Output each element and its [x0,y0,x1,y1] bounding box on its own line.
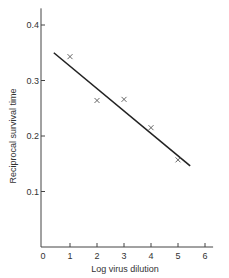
y-tick-label: 0.1 [26,187,39,197]
y-tick-label: 0.2 [26,131,39,141]
x-ticks: 0123456 [40,243,207,261]
x-tick-label: 6 [202,251,207,261]
x-tick-label: 2 [94,251,99,261]
data-point [68,54,73,59]
regression-line [54,53,190,166]
y-ticks: 0.10.20.30.4 [26,20,45,197]
x-axis-label: Log virus dilution [91,264,159,274]
data-point [176,157,181,162]
x-tick-label: 1 [67,251,72,261]
y-tick-label: 0.4 [26,20,39,30]
data-point [149,125,154,130]
data-point [122,97,127,102]
chart: 0123456 0.10.20.30.4 Log virus dilution … [0,0,229,278]
data-points [68,54,181,162]
axes [41,8,213,247]
y-tick-label: 0.3 [26,76,39,86]
data-point [95,98,100,103]
x-tick-label: 4 [148,251,153,261]
fit-line-group [54,53,190,166]
x-tick-label: 3 [121,251,126,261]
x-tick-label: 0 [40,251,45,261]
x-tick-label: 5 [175,251,180,261]
y-axis-label: Reciprocal survival time [8,88,18,183]
